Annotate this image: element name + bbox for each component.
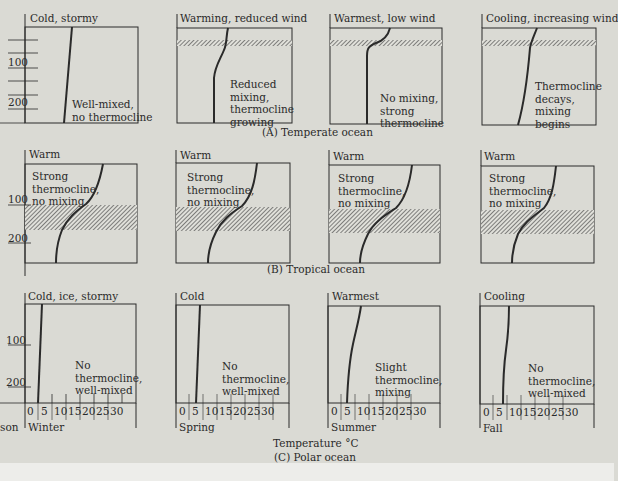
- temp-tick: 15: [371, 405, 384, 417]
- season-label: Spring: [179, 421, 215, 433]
- chart-title: Warmest, low wind: [334, 12, 435, 24]
- chart-title: Warm: [180, 149, 211, 161]
- temp-tick: 10: [205, 405, 218, 417]
- chart-note: Reduced mixing, thermocline growing: [230, 78, 294, 128]
- depth-tick: 100: [8, 56, 28, 68]
- chart-title: Cooling: [484, 290, 525, 302]
- temp-tick: 30: [413, 405, 426, 417]
- depth-tick: 100: [6, 334, 26, 346]
- temp-tick: 20: [233, 405, 246, 417]
- temp-tick: 15: [219, 405, 232, 417]
- chart-title: Warm: [29, 148, 60, 160]
- chart-note: Thermocline decays, mixing begins: [535, 80, 602, 130]
- chart-title: Warm: [484, 150, 515, 162]
- x-axis-label: Temperature °C: [273, 437, 358, 449]
- season-label: Fall: [483, 422, 503, 434]
- depth-tick: 200: [6, 376, 26, 388]
- chart-note: Strong thermocline, no mixing: [32, 170, 99, 208]
- temp-tick: 30: [261, 405, 274, 417]
- temp-tick: 25: [96, 405, 109, 417]
- chart-note: No thermocline, well-mixed: [75, 359, 142, 397]
- temp-tick: 25: [399, 405, 412, 417]
- temp-tick: 0: [179, 405, 186, 417]
- chart-note: Strong thermocline, no mixing: [338, 172, 405, 210]
- temp-tick: 5: [192, 405, 199, 417]
- temp-tick: 15: [68, 405, 81, 417]
- chart-note: Slight thermocline, mixing: [375, 361, 442, 399]
- chart-note: Well-mixed, no thermocline: [72, 98, 153, 123]
- chart-note: Strong thermocline, no mixing: [187, 171, 254, 209]
- temp-tick: 30: [110, 405, 123, 417]
- temp-tick: 15: [523, 406, 536, 418]
- temp-tick: 20: [537, 406, 550, 418]
- season-label: Winter: [28, 421, 64, 433]
- chart-note: No thermocline, well-mixed: [528, 362, 595, 400]
- temp-tick: 30: [565, 406, 578, 418]
- chart-note: Strong thermocline, no mixing: [489, 172, 556, 210]
- temp-tick: 10: [54, 405, 67, 417]
- panel-caption: (C) Polar ocean: [274, 451, 356, 463]
- temp-tick: 5: [496, 406, 503, 418]
- temp-tick: 20: [82, 405, 95, 417]
- depth-tick: 100: [8, 193, 28, 205]
- temp-tick: 10: [509, 406, 522, 418]
- temp-tick: 5: [344, 405, 351, 417]
- chart-title: Cooling, increasing wind: [486, 12, 618, 24]
- chart-title: Warming, reduced wind: [180, 12, 307, 24]
- temp-tick: 10: [357, 405, 370, 417]
- chart-title: Warmest: [332, 290, 379, 302]
- chart-title: Warm: [333, 150, 364, 162]
- panel-caption: (B) Tropical ocean: [267, 263, 365, 275]
- temp-tick: 0: [483, 406, 490, 418]
- chart-title: Cold, stormy: [30, 12, 98, 24]
- season-label: Summer: [331, 421, 376, 433]
- temp-tick: 0: [27, 405, 34, 417]
- chart-title: Cold: [180, 290, 204, 302]
- temp-tick: 20: [385, 405, 398, 417]
- depth-tick: 200: [8, 232, 28, 244]
- season-axis-label: son: [0, 421, 18, 433]
- chart-note: No mixing, strong thermocline: [380, 92, 444, 130]
- temp-tick: 0: [331, 405, 338, 417]
- temp-tick: 5: [41, 405, 48, 417]
- depth-tick: 200: [8, 96, 28, 108]
- chart-title: Cold, ice, stormy: [28, 290, 118, 302]
- chart-note: No thermocline, well-mixed: [222, 360, 289, 398]
- temp-tick: 25: [551, 406, 564, 418]
- temp-tick: 25: [247, 405, 260, 417]
- panel-caption: (A) Temperate ocean: [262, 126, 373, 138]
